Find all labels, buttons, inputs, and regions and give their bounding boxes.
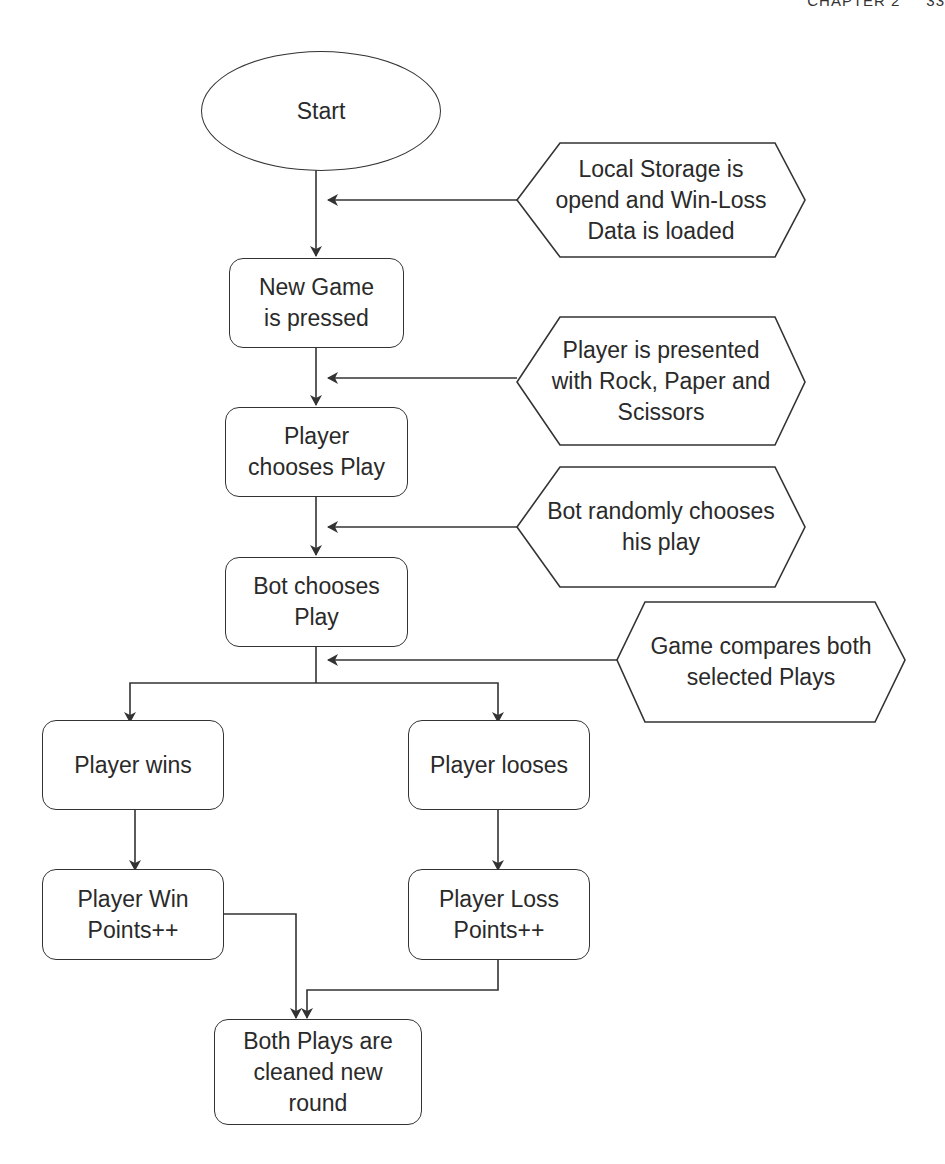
- player-chooses-label: Player chooses Play: [248, 421, 385, 483]
- start-node: Start: [201, 51, 441, 171]
- compare-label: Game compares both selected Plays: [612, 602, 910, 722]
- win-points-label: Player Win Points++: [77, 884, 188, 946]
- win-points-node: Player Win Points++: [42, 869, 224, 960]
- local-storage-label: Local Storage is opend and Win-Loss Data…: [517, 143, 805, 257]
- clean-round-label: Both Plays are cleaned new round: [243, 1026, 393, 1119]
- loss-points-label: Player Loss Points++: [439, 884, 559, 946]
- bot-chooses-node: Bot chooses Play: [225, 557, 408, 647]
- player-chooses-node: Player chooses Play: [225, 407, 408, 497]
- loss-points-node: Player Loss Points++: [408, 869, 590, 960]
- bot-chooses-label: Bot chooses Play: [253, 571, 380, 633]
- player-looses-node: Player looses: [408, 720, 590, 810]
- bot-random-label: Bot randomly chooses his play: [510, 467, 812, 587]
- presented-label: Player is presented with Rock, Paper and…: [514, 317, 808, 445]
- player-looses-label: Player looses: [430, 750, 568, 781]
- player-wins-label: Player wins: [74, 750, 192, 781]
- start-label: Start: [297, 96, 346, 127]
- player-wins-node: Player wins: [42, 720, 224, 810]
- new-game-node: New Game is pressed: [229, 258, 404, 348]
- new-game-label: New Game is pressed: [259, 272, 374, 334]
- clean-round-node: Both Plays are cleaned new round: [214, 1019, 422, 1125]
